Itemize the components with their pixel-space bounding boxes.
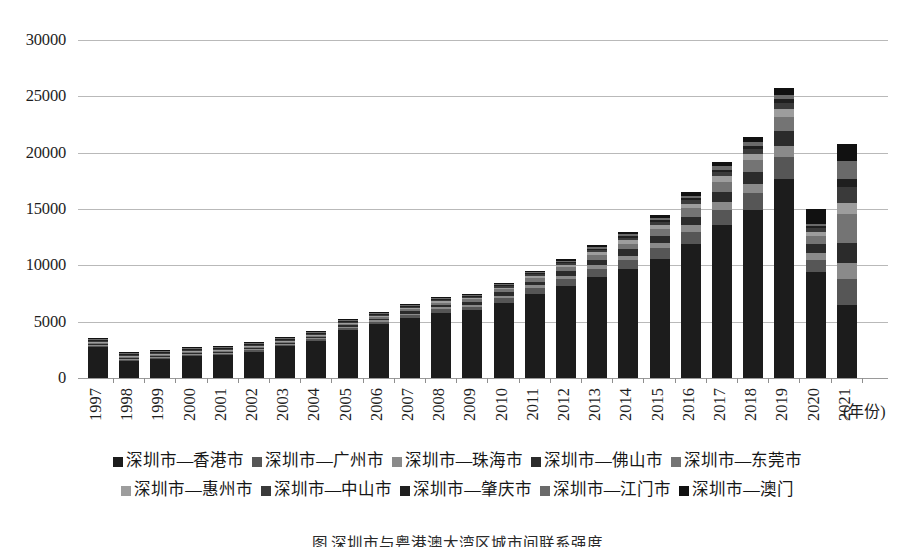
legend-swatch-icon [392, 457, 402, 467]
figure-caption: 图 深圳市与粤港澳大湾区城市间联系强度 [0, 531, 915, 547]
x-axis-tick-text: 2011 [525, 388, 542, 420]
legend-item[interactable]: 深圳市—东莞市 [671, 453, 803, 470]
x-axis-tick [175, 378, 176, 383]
bar-segment [774, 131, 794, 146]
x-axis-tick [144, 378, 145, 383]
legend-swatch-icon [679, 486, 689, 496]
legend-item[interactable]: 深圳市—肇庆市 [400, 482, 532, 499]
stacked-bar [213, 346, 233, 378]
x-axis-tick [331, 378, 332, 383]
x-axis-tick-label: 1999 [150, 387, 170, 405]
bar-segment [837, 214, 857, 243]
x-axis-tick-label: 2016 [681, 387, 701, 405]
bar-segment [837, 187, 857, 204]
legend-item[interactable]: 深圳市—香港市 [113, 453, 245, 470]
bar-segment [431, 313, 451, 378]
x-axis-tick-text: 2006 [369, 388, 386, 421]
x-axis-tick-label: 2007 [400, 387, 420, 405]
bar-segment [618, 260, 638, 269]
bar-segment [806, 260, 826, 272]
bar-segment [650, 248, 670, 258]
y-axis-tick-label: 10000 [26, 257, 66, 274]
bar-segment [556, 286, 576, 378]
legend-item[interactable]: 深圳市—惠州市 [121, 482, 253, 499]
x-axis-tick-text: 2020 [806, 388, 823, 421]
bar-segment [150, 359, 170, 378]
bar-segment [743, 210, 763, 378]
x-axis-tick-text: 2000 [182, 388, 199, 421]
legend-item[interactable]: 深圳市—佛山市 [531, 453, 663, 470]
x-axis-tick-text: 2004 [306, 388, 323, 421]
stacked-bar [618, 232, 638, 378]
legend-item[interactable]: 深圳市—江门市 [540, 482, 672, 499]
bar-segment [494, 303, 514, 378]
x-axis-tick-label: 2014 [618, 387, 638, 405]
bar-segment [743, 172, 763, 184]
x-axis-tick-label: 2009 [462, 387, 482, 405]
bar-segment [837, 203, 857, 213]
y-axis-tick-label: 20000 [26, 144, 66, 161]
stacked-bar [119, 352, 139, 378]
stacked-bar [494, 283, 514, 378]
x-axis-tick-text: 2015 [650, 388, 667, 421]
legend-item[interactable]: 深圳市—澳门 [679, 482, 794, 499]
bar-segment [837, 144, 857, 161]
bar-segment [837, 305, 857, 378]
bar-segment [774, 117, 794, 131]
y-axis-tick-label: 30000 [26, 32, 66, 49]
legend-item[interactable]: 深圳市—广州市 [252, 453, 384, 470]
stacked-bar [244, 342, 264, 378]
x-axis-tick-text: 2001 [213, 388, 230, 421]
bar-segment [774, 179, 794, 378]
bar-segment [712, 225, 732, 378]
bar-segment [681, 244, 701, 378]
x-axis-tick-label: 2006 [369, 387, 389, 405]
x-axis-tick-label: 2020 [806, 387, 826, 405]
x-axis-tick-text: 2017 [712, 388, 729, 421]
x-axis-tick [519, 378, 520, 383]
x-axis-tick [706, 378, 707, 383]
x-axis-tick [363, 378, 364, 383]
bar-segment [681, 208, 701, 216]
x-axis-tick-text: 1998 [119, 388, 136, 421]
x-axis-tick-label: 2019 [774, 387, 794, 405]
stacked-bar [275, 337, 295, 378]
bar-segment [806, 244, 826, 253]
x-axis-tick [831, 378, 832, 383]
x-axis-tick-label: 2001 [213, 387, 233, 405]
stacked-bar [525, 271, 545, 378]
bar-segment [650, 259, 670, 378]
x-axis-tick [456, 378, 457, 383]
x-axis-tick-text: 2007 [400, 388, 417, 421]
x-axis-tick [581, 378, 582, 383]
legend-label: 深圳市—珠海市 [405, 453, 524, 470]
bar-segment [774, 146, 794, 157]
x-axis-tick-label: 2005 [338, 387, 358, 405]
stacked-bar [743, 137, 763, 378]
legend-item[interactable]: 深圳市—中山市 [261, 482, 393, 499]
bar-segment [712, 202, 732, 210]
legend-swatch-icon [261, 486, 271, 496]
stacked-bar [650, 215, 670, 378]
x-axis-tick-text: 1999 [150, 388, 167, 421]
x-axis-tick [768, 378, 769, 383]
x-axis-tick [862, 378, 863, 383]
x-axis-tick-label: 2003 [275, 387, 295, 405]
chart-legend: 深圳市—香港市深圳市—广州市深圳市—珠海市深圳市—佛山市深圳市—东莞市深圳市—惠… [0, 447, 915, 505]
x-axis-tick-label: 2008 [431, 387, 451, 405]
legend-swatch-icon [121, 486, 131, 496]
x-axis-tick [643, 378, 644, 383]
x-axis-tick-text: 2008 [431, 388, 448, 421]
legend-swatch-icon [671, 457, 681, 467]
bar-segment [275, 346, 295, 378]
bar-segment [587, 269, 607, 276]
stacked-bar [806, 209, 826, 378]
x-axis-tick [425, 378, 426, 383]
x-axis-tick-label: 2015 [650, 387, 670, 405]
x-axis-tick-label: 1997 [88, 387, 108, 405]
legend-item[interactable]: 深圳市—珠海市 [392, 453, 524, 470]
bar-segment [618, 269, 638, 378]
bar-segment [712, 182, 732, 192]
stacked-bar [306, 331, 326, 378]
x-axis-tick [675, 378, 676, 383]
